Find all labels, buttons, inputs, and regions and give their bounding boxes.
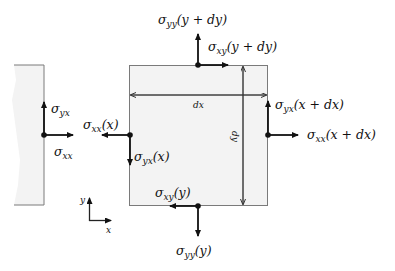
x-axis-label: x	[106, 225, 111, 235]
left-shear-label: σyx(x)	[134, 149, 170, 166]
differential-element: dx dy σyy(y + dy) σxy(y + dy) σxx(x) σyx…	[83, 12, 376, 260]
top-normal-label: σyy(y + dy)	[158, 12, 227, 29]
dx-label: dx	[193, 100, 204, 110]
top-shear-label: σxy(y + dy)	[208, 39, 277, 56]
bottom-shear-label: σxy(y)	[155, 185, 191, 202]
stress-element-diagram: σyx σxx dx dy σyy(y + dy) σxy(y + dy) σx…	[0, 0, 395, 271]
top-face-point	[195, 62, 201, 68]
y-axis-label: y	[79, 195, 86, 205]
bottom-face-point	[195, 203, 201, 209]
sigma-xx-label: σxx	[54, 144, 73, 161]
dy-label: dy	[230, 131, 240, 143]
element-box	[130, 66, 268, 206]
sigma-yx-label: σyx	[51, 101, 70, 118]
right-shear-label: σyx(x + dx)	[275, 97, 344, 114]
right-normal-label: σxx(x + dx)	[307, 127, 376, 144]
left-cut-body	[12, 65, 44, 205]
left-normal-label: σxx(x)	[83, 117, 119, 134]
coordinate-axes: y x	[79, 195, 111, 235]
left-cut-element: σyx σxx	[12, 65, 73, 205]
left-face-point	[127, 132, 133, 138]
left-cut-point	[41, 132, 47, 138]
right-face-point	[265, 132, 271, 138]
bottom-normal-label: σyy(y)	[176, 243, 212, 260]
